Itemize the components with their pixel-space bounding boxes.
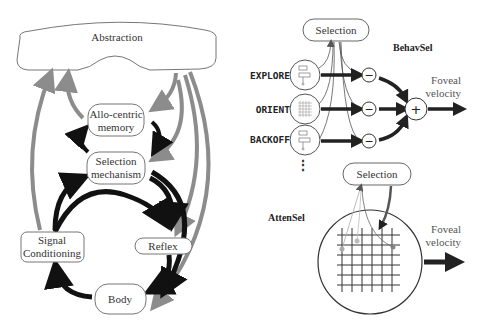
allocentric-memory-node: Allo-centric memory xyxy=(88,104,144,136)
selection-mechanism-label-1: Selection xyxy=(96,155,137,167)
arrow-abstraction-to-memory xyxy=(155,73,176,108)
arrow-signal-to-reflex xyxy=(55,192,165,232)
abstraction-node: Abstraction xyxy=(17,22,216,70)
allocentric-memory-label-1: Allo-centric xyxy=(89,108,142,120)
left-architecture-diagram: Abstraction Allo-centric memory xyxy=(17,22,216,314)
attensel-selection-node: Selection xyxy=(343,163,411,185)
behavsel-title: BehavSel xyxy=(393,42,433,53)
attensel-diagram: AttenSel Selection Foveal velocity xyxy=(268,163,461,314)
allocentric-memory-label-2: memory xyxy=(98,121,135,133)
selection-mechanism-node: Selection mechanism xyxy=(87,152,145,184)
more-behaviors-ellipsis: ⋮ xyxy=(296,158,310,173)
minus-node-1: − xyxy=(362,68,376,82)
arrow-memory-to-abstraction xyxy=(68,76,83,118)
behavior-backoff: BACKOFF xyxy=(250,125,320,155)
attensel-title: AttenSel xyxy=(268,212,305,223)
arrow-selection-to-memory xyxy=(80,130,88,152)
attensel-selection-label: Selection xyxy=(357,168,398,180)
behavsel-output-label-2: velocity xyxy=(426,87,462,99)
minus-symbol: − xyxy=(364,103,373,116)
reflex-node: Reflex xyxy=(135,238,192,254)
orient-label: ORIENT xyxy=(256,104,291,115)
body-label: Body xyxy=(108,293,132,305)
behavior-explore: EXPLORE xyxy=(250,60,320,90)
sum-node: + xyxy=(405,98,427,120)
body-node: Body xyxy=(95,284,146,314)
behavsel-output-label-1: Foveal xyxy=(431,74,461,86)
arrow-memory-to-selection xyxy=(152,122,159,150)
signal-conditioning-label-1: Signal xyxy=(38,234,66,246)
behavsel-thin-connections xyxy=(319,42,360,141)
behavsel-diagram: Selection BehavSel EXPLORE ORIENT xyxy=(250,19,462,173)
signal-conditioning-node: Signal Conditioning xyxy=(21,232,84,262)
selection-mechanism-label-2: mechanism xyxy=(91,168,142,180)
arrow-signal-to-abstraction xyxy=(32,75,50,230)
abstraction-label: Abstraction xyxy=(91,31,143,43)
reflex-label: Reflex xyxy=(148,240,178,252)
diagram-canvas: Abstraction Allo-centric memory xyxy=(0,0,481,331)
minus-symbol: − xyxy=(364,69,373,82)
behavior-orient: ORIENT xyxy=(256,94,320,124)
plus-symbol: + xyxy=(411,102,422,117)
attensel-output-label-1: Foveal xyxy=(431,223,461,235)
explore-label: EXPLORE xyxy=(250,70,290,81)
behavsel-selection-label: Selection xyxy=(316,24,357,36)
arrow-body-to-signal xyxy=(56,268,92,297)
visual-field-circle xyxy=(318,210,422,314)
attensel-output-label-2: velocity xyxy=(426,236,462,248)
signal-conditioning-label-2: Conditioning xyxy=(23,247,82,259)
behavsel-selection-node: Selection xyxy=(303,19,369,41)
minus-symbol: − xyxy=(364,135,373,148)
minus-node-3: − xyxy=(362,134,376,148)
minus-node-2: − xyxy=(362,102,376,116)
backoff-label: BACKOFF xyxy=(250,134,290,145)
